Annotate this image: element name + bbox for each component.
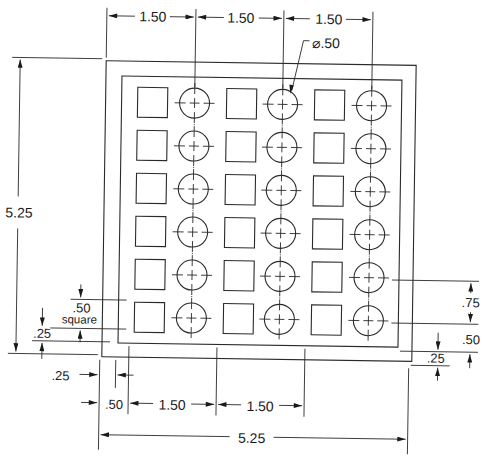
square-cutout: [224, 218, 254, 248]
top-dimensions: 1.50 1.50 1.50 ⌀.50: [106, 8, 373, 95]
dim-overall-height: 5.25: [5, 204, 33, 220]
dim-square-label: square: [62, 313, 97, 326]
hole-with-center-mark: [171, 298, 212, 339]
hole-with-center-mark: [259, 299, 300, 340]
dim-overall-width: 5.25: [238, 430, 266, 446]
bottom-dimensions: .25 .50 1.50 1.50 5.25: [50, 345, 409, 454]
dim-bottom-left-inset: .25: [51, 368, 69, 383]
square-cutout: [224, 261, 254, 291]
square-cutout: [226, 89, 256, 119]
dim-right-row-spacing: .75: [461, 295, 479, 310]
inner-border-outline: [118, 76, 402, 347]
feature-grid: [134, 82, 392, 341]
hole-with-center-mark: [260, 213, 301, 254]
hole-with-center-mark: [351, 85, 392, 126]
dim-left-inset: .25: [33, 326, 51, 341]
right-dimensions: .75 .50 .25: [390, 280, 481, 381]
square-cutout: [226, 132, 256, 162]
dim-bottom-spacing-1: 1.50: [158, 397, 186, 413]
dim-top-spacing-2: 1.50: [227, 10, 255, 26]
hole-with-center-mark: [260, 256, 301, 297]
hole-with-center-mark: [173, 169, 214, 210]
dim-top-spacing-3: 1.50: [315, 11, 343, 27]
hole-with-center-mark: [174, 126, 215, 167]
dim-right-bottom-offset: .50: [462, 332, 480, 347]
dim-right-inset: .25: [427, 351, 445, 366]
square-cutout: [314, 133, 344, 163]
dim-hole-diameter: ⌀.50: [312, 35, 340, 51]
hole-with-center-mark: [349, 214, 390, 255]
hole-with-center-mark: [174, 83, 215, 124]
hole-with-center-mark: [348, 300, 389, 341]
hole-with-center-mark: [172, 255, 213, 296]
hole-with-center-mark: [351, 128, 392, 169]
square-cutout: [225, 175, 255, 205]
square-cutout: [314, 90, 344, 120]
square-cutout: [312, 262, 342, 292]
hole-with-center-mark: [262, 84, 303, 125]
hole-with-center-mark: [350, 171, 391, 212]
square-cutout: [135, 216, 165, 246]
left-dimensions: 5.25 .50 square .25: [3, 57, 130, 360]
square-cutout: [135, 259, 165, 289]
square-cutout: [134, 302, 164, 332]
square-cutout: [313, 176, 343, 206]
hole-with-center-mark: [262, 127, 303, 168]
dim-top-spacing-1: 1.50: [139, 8, 167, 24]
square-cutout: [312, 219, 342, 249]
square-cutout: [136, 173, 166, 203]
square-cutout: [311, 305, 341, 335]
square-cutout: [137, 87, 167, 117]
hole-with-center-mark: [349, 257, 390, 298]
dim-bottom-spacing-2: 1.50: [246, 398, 274, 414]
square-cutout: [137, 130, 167, 160]
hole-with-center-mark: [261, 170, 302, 211]
hole-with-center-mark: [172, 212, 213, 253]
technical-drawing: 1.50 1.50 1.50 ⌀.50 5.25 .50 square .25: [0, 0, 488, 457]
dim-bottom-first-offset: .50: [105, 397, 123, 412]
square-cutout: [223, 304, 253, 334]
